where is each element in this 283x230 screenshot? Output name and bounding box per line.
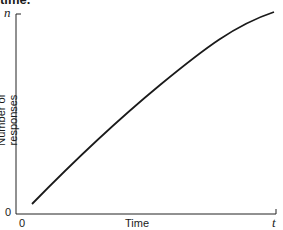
chart-plot bbox=[0, 0, 283, 230]
x-tick-label-zero: 0 bbox=[19, 217, 25, 229]
y-axis-label: Number of responses bbox=[0, 75, 19, 165]
x-tick-label-t: t bbox=[272, 215, 276, 230]
x-axis-label: Time bbox=[125, 217, 149, 229]
y-tick-label-zero: 0 bbox=[5, 206, 11, 218]
response-curve bbox=[32, 12, 274, 204]
y-tick-label-n: n bbox=[4, 5, 11, 21]
